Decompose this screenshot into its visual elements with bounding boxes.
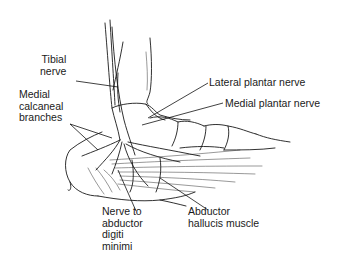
foot-nerve-diagram: Tibial nerve Medial calcaneal branches L… <box>0 0 346 253</box>
label-medial-calcaneal-branches: Medial calcaneal branches <box>19 89 63 124</box>
foot-illustration <box>0 0 346 253</box>
label-medial-plantar-nerve: Medial plantar nerve <box>225 98 320 110</box>
label-tibial-nerve: Tibial nerve <box>40 54 66 77</box>
calcaneal-leader-2 <box>70 124 98 150</box>
label-lateral-plantar-nerve: Lateral plantar nerve <box>209 77 305 89</box>
lateral-plantar-leader <box>148 83 208 118</box>
label-abductor-hallucis-muscle: Abductor hallucis muscle <box>188 206 259 229</box>
label-nerve-to-abductor-digiti-minimi: Nerve to abductor digiti minimi <box>102 206 143 252</box>
calcaneal-leader-1 <box>70 124 112 138</box>
tibial-nerve-leader <box>76 81 118 87</box>
